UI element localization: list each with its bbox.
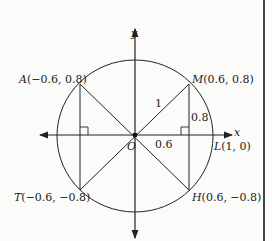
origin-label: O <box>127 140 136 153</box>
point-H-label: H(0.6, −0.8) <box>191 191 261 204</box>
point-A-label: A(−0.6, 0.8) <box>18 73 87 86</box>
right-border <box>263 0 265 241</box>
y-axis-label: y <box>130 27 138 40</box>
base-label: 0.6 <box>155 138 173 151</box>
height-label: 0.8 <box>191 111 209 124</box>
right-angle-mark-left <box>80 127 88 135</box>
point-M-label: M(0.6, 0.8) <box>191 73 254 86</box>
point-L-label: L(1, 0) <box>213 140 251 153</box>
radius-label: 1 <box>155 97 162 110</box>
diagram-canvas: y x O A(−0.6, 0.8) M(0.6, 0.8) T(−0.6, −… <box>0 0 272 241</box>
point-T-label: T(−0.6, −0.8) <box>14 191 90 204</box>
origin-point <box>133 133 137 137</box>
right-angle-mark-right <box>181 127 189 135</box>
unit-circle-figure: y x O A(−0.6, 0.8) M(0.6, 0.8) T(−0.6, −… <box>0 0 272 241</box>
x-axis-label: x <box>234 126 241 139</box>
